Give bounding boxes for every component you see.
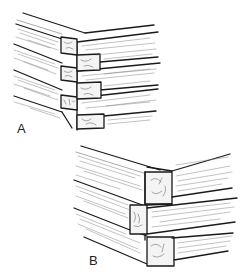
a-log-end-6 bbox=[77, 114, 104, 129]
a-left-course1-top bbox=[16, 24, 62, 39]
a-log-end-2 bbox=[77, 54, 100, 71]
b-timber-end-3 bbox=[147, 237, 174, 266]
a-right-top-edge bbox=[85, 25, 154, 33]
a-left-top-edge bbox=[23, 13, 85, 33]
b-left-top-edge bbox=[81, 146, 160, 170]
a-log-end-4 bbox=[77, 82, 101, 99]
a-log-end-5 bbox=[61, 95, 77, 110]
a-right-wall-grain bbox=[82, 38, 156, 124]
panel-b-joint bbox=[74, 146, 237, 266]
b-timber-end-1 bbox=[145, 172, 172, 204]
a-log-end-1 bbox=[61, 37, 77, 55]
panel-a-label: A bbox=[17, 121, 26, 136]
b-right-top-edge bbox=[172, 154, 230, 171]
panel-a-joint bbox=[14, 13, 160, 130]
figure-canvas: A bbox=[0, 0, 249, 278]
panel-b-label: B bbox=[89, 253, 98, 268]
b-timber-end-2 bbox=[130, 205, 147, 234]
a-log-end-3 bbox=[61, 66, 77, 82]
